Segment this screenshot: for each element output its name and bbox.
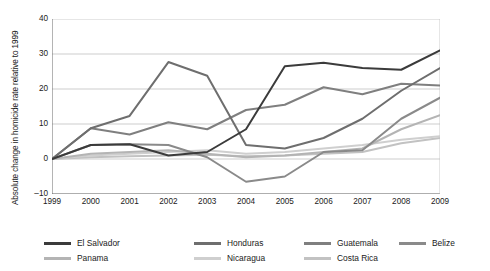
legend-item-panama[interactable]: Panama [44, 251, 108, 265]
legend-label: Costa Rica [337, 253, 378, 263]
x-tick-label-2003: 2003 [187, 197, 227, 207]
x-tick-label-2001: 2001 [110, 197, 150, 207]
x-tick-label-2002: 2002 [148, 197, 188, 207]
chart-canvas [52, 19, 440, 194]
legend-swatch-icon [304, 257, 331, 260]
gridlines [52, 19, 440, 194]
legend-item-guatemala[interactable]: Guatemala [304, 236, 378, 250]
legend-item-el-salvador[interactable]: El Salvador [44, 236, 120, 250]
y-tick-label-40: 40 [26, 15, 48, 23]
legend-item-nicaragua[interactable]: Nicaragua [194, 251, 265, 265]
legend-swatch-icon [194, 257, 221, 260]
legend-label: Belize [432, 238, 455, 248]
legend-swatch-icon [194, 242, 221, 245]
x-tick-label-2005: 2005 [265, 197, 305, 207]
y-tick-label-30: 30 [26, 50, 48, 58]
y-tick-label-0: 0 [26, 155, 48, 163]
legend-swatch-icon [44, 257, 71, 260]
legend-label: Guatemala [337, 238, 378, 248]
x-tick-label-2008: 2008 [381, 197, 421, 207]
legend-item-costa-rica[interactable]: Costa Rica [304, 251, 378, 265]
x-tick-label-1999: 1999 [32, 197, 72, 207]
y-tick-label-10: 10 [26, 120, 48, 128]
legend-swatch-icon [399, 242, 426, 245]
x-tick-label-2000: 2000 [71, 197, 111, 207]
legend-row-1: El SalvadorHondurasGuatemalaBelize [44, 236, 464, 250]
x-tick-label-2006: 2006 [304, 197, 344, 207]
legend-label: El Salvador [77, 238, 120, 248]
x-axis-tick-labels: 1999200020012002200320042005200620072008… [0, 197, 490, 211]
legend-swatch-icon [304, 242, 331, 245]
legend-label: Nicaragua [227, 253, 265, 263]
legend-label: Honduras [227, 238, 263, 248]
legend-label: Panama [77, 253, 108, 263]
series-line-costa-rica [52, 138, 440, 159]
y-axis-tick-labels: –10010203040 [22, 0, 48, 271]
legend-row-2: PanamaNicaraguaCosta Rica [44, 251, 464, 265]
axis-lines [52, 19, 440, 194]
plot-area [52, 19, 440, 194]
y-tick-label-20: 20 [26, 85, 48, 93]
chart-legend: El SalvadorHondurasGuatemalaBelizePanama… [44, 236, 464, 268]
legend-item-honduras[interactable]: Honduras [194, 236, 263, 250]
legend-swatch-icon [44, 242, 71, 245]
x-tick-label-2004: 2004 [226, 197, 266, 207]
legend-item-belize[interactable]: Belize [399, 236, 455, 250]
x-tick-label-2009: 2009 [420, 197, 460, 207]
data-series-group [52, 51, 440, 182]
x-tick-label-2007: 2007 [342, 197, 382, 207]
homicide-change-line-chart: Absolute change in homicide rate relativ… [0, 0, 490, 271]
